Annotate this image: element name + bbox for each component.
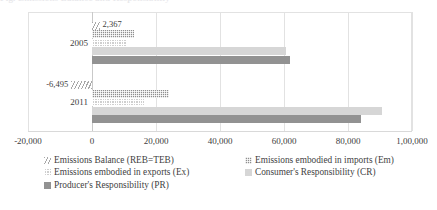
bar-reb-2011 [71, 81, 92, 89]
x-tick-100000: 1,00,000 [396, 136, 428, 147]
bar-value-label-reb-2005: 2,367 [103, 20, 122, 29]
legend-swatch-icon-cr [245, 169, 252, 176]
legend-label: Producer's Responsibility (PR) [54, 180, 169, 191]
bar-em-2011 [92, 90, 169, 98]
x-tick-80000: 80,000 [336, 136, 361, 147]
category-label-2011: 2011 [0, 97, 88, 107]
legend-swatch-icon-reb [44, 157, 51, 164]
gridline [412, 12, 413, 131]
x-tick-20000: 20,000 [144, 136, 169, 147]
bar-cr-2005 [92, 47, 286, 55]
bar-em-2005 [92, 30, 134, 38]
bar-value-label-reb-2011: -6,495 [46, 80, 68, 89]
legend-item-ex[interactable]: Emissions embodied in exports (Ex) [44, 167, 189, 180]
x-tick-0: 0 [90, 136, 95, 147]
legend-label: Emissions embodied in exports (Ex) [54, 167, 189, 178]
x-tick-60000: 60,000 [272, 136, 297, 147]
legend-item-em[interactable]: Emissions embodied in imports (Em) [245, 154, 394, 167]
legend-label: Consumer's Responsibility (CR) [255, 167, 375, 178]
x-axis-tick-labels: -20,000020,00040,00060,00080,0001,00,000 [0, 136, 437, 150]
bar-ex-2005 [92, 39, 126, 47]
chart-legend: Emissions Balance (REB=TEB)Emissions emb… [0, 154, 437, 204]
legend-swatch-icon-ex [44, 169, 51, 176]
legend-item-pr[interactable]: Producer's Responsibility (PR) [44, 179, 189, 192]
legend-item-cr[interactable]: Consumer's Responsibility (CR) [245, 167, 394, 180]
legend-swatch-icon-em [245, 157, 252, 164]
category-label-2005: 2005 [0, 38, 88, 48]
plot-area: 2,367-6,495 [28, 12, 412, 131]
bar-reb-2005 [92, 22, 100, 30]
cut-off-caption: Fig. Emissions Balance and Responsibilit… [0, 0, 437, 3]
x-tick-40000: 40,000 [208, 136, 233, 147]
legend-item-reb[interactable]: Emissions Balance (REB=TEB) [44, 154, 189, 167]
bar-ex-2011 [92, 98, 144, 106]
axis-baseline [28, 131, 412, 132]
bar-cr-2011 [92, 107, 382, 115]
legend-label: Emissions Balance (REB=TEB) [54, 155, 174, 166]
legend-column-left: Emissions Balance (REB=TEB)Emissions emb… [44, 154, 189, 192]
horizontal-bar-chart: 2,367-6,495 20052011 -20,000020,00040,00… [0, 8, 437, 210]
x-tick--20000: -20,000 [14, 136, 42, 147]
legend-column-right: Emissions embodied in imports (Em)Consum… [245, 154, 394, 179]
bar-pr-2005 [92, 56, 290, 64]
legend-swatch-icon-pr [44, 182, 51, 189]
gridline [28, 12, 29, 131]
legend-label: Emissions embodied in imports (Em) [255, 155, 394, 166]
bar-pr-2011 [92, 115, 361, 123]
